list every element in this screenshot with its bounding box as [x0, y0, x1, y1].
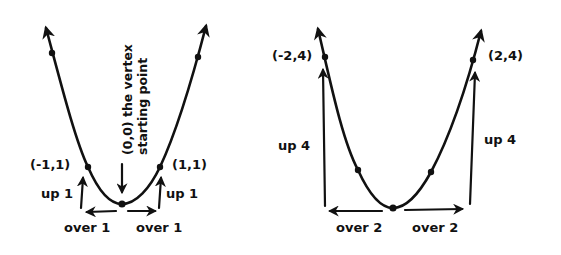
over-1-left-arrow: [87, 211, 116, 212]
up-1-right-arrow: [159, 178, 161, 208]
over-1-right-label: over 1: [136, 220, 182, 235]
up-4-left-label: up 4: [278, 138, 310, 153]
point-neg2-4-label: (-2,4): [272, 48, 312, 63]
right-graph: (-2,4) (2,4) up 4 up 4 over 2 over 2: [272, 29, 523, 235]
right-parabola-curve: [318, 29, 481, 208]
point-neg1-1: [85, 164, 91, 170]
parabola-diagram: (-1,1) (1,1) up 1 up 1 over 1 over 1 (0,…: [0, 0, 561, 255]
vertex-label-line1: (0,0) the vertex: [120, 44, 135, 155]
point-1-1-right: [428, 169, 434, 175]
up-4-left-arrow: [323, 70, 325, 206]
up-4-right-label: up 4: [484, 132, 516, 147]
up-1-left-label: up 1: [41, 186, 73, 201]
right-vertex-point: [389, 204, 396, 211]
over-1-left-label: over 1: [64, 220, 110, 235]
up-1-left-arrow: [81, 178, 83, 208]
point-2-4: [470, 57, 476, 63]
vertex-label-line2: starting point: [135, 58, 150, 155]
point-1-1-label: (1,1): [172, 157, 207, 172]
over-2-right-label: over 2: [412, 220, 458, 235]
left-graph: (-1,1) (1,1) up 1 up 1 over 1 over 1 (0,…: [30, 26, 207, 235]
left-upper-left-point: [49, 50, 55, 56]
point-2-4-label: (2,4): [488, 48, 523, 63]
over-2-right-arrow: [405, 209, 462, 210]
point-neg2-4: [322, 54, 328, 60]
point-neg1-1-right: [355, 167, 361, 173]
over-2-left-label: over 2: [336, 220, 382, 235]
left-upper-right-point: [195, 54, 201, 60]
point-neg1-1-label: (-1,1): [30, 157, 70, 172]
vertex-annotation: (0,0) the vertex starting point: [120, 44, 150, 155]
up-4-right-arrow: [470, 73, 475, 204]
vertex-point: [118, 200, 125, 207]
point-1-1: [157, 164, 163, 170]
up-1-right-label: up 1: [166, 186, 198, 201]
